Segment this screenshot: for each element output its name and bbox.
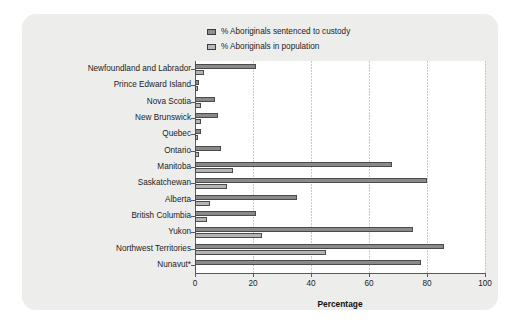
x-tick-mark: [369, 273, 370, 277]
y-tick-mark: [191, 232, 195, 233]
bar-custody: [195, 64, 256, 69]
chart-panel: % Aboriginals sentenced to custody % Abo…: [22, 14, 498, 310]
bar-group: [195, 63, 485, 75]
bar-custody: [195, 260, 421, 265]
bar-group: [195, 96, 485, 108]
x-axis-line: [195, 273, 485, 274]
y-axis-label: Nunavut*: [157, 260, 191, 269]
y-tick-mark: [191, 85, 195, 86]
y-axis-label: Yukon: [168, 227, 191, 236]
y-axis-category-labels: Newfoundland and LabradorPrince Edward I…: [52, 61, 191, 273]
x-tick-mark: [311, 273, 312, 277]
y-axis-label: New Brunswick: [135, 113, 191, 122]
y-tick-mark: [191, 216, 195, 217]
y-axis-label: Prince Edward Island: [114, 80, 191, 89]
bar-custody: [195, 178, 427, 183]
bar-population: [195, 168, 233, 173]
x-tick-label: 80: [412, 279, 442, 289]
y-axis-label: Alberta: [165, 195, 191, 204]
y-axis-label: Newfoundland and Labrador: [88, 64, 191, 73]
bar-population: [195, 103, 201, 108]
bar-population: [195, 201, 210, 206]
bar-group: [195, 79, 485, 91]
x-axis-title: Percentage: [195, 299, 485, 309]
x-tick-mark: [485, 273, 486, 277]
bar-population: [195, 250, 326, 255]
x-tick-label: 60: [354, 279, 384, 289]
y-axis-label: Manitoba: [157, 162, 191, 171]
y-axis-label: Ontario: [164, 146, 191, 155]
bar-group: [195, 112, 485, 124]
y-axis-label: Saskatchewan: [138, 178, 191, 187]
bar-group: [195, 226, 485, 238]
legend-swatch-custody: [207, 29, 216, 35]
bar-custody: [195, 227, 413, 232]
legend-label-population: % Aboriginals in population: [221, 42, 319, 52]
legend-label-custody: % Aboriginals sentenced to custody: [221, 27, 350, 37]
bar-group: [195, 210, 485, 222]
bar-custody: [195, 211, 256, 216]
y-tick-mark: [191, 102, 195, 103]
bar-group: [195, 128, 485, 140]
x-tick-label: 0: [180, 279, 210, 289]
y-tick-mark: [191, 183, 195, 184]
bar-group: [195, 177, 485, 189]
x-tick-label: 40: [296, 279, 326, 289]
bar-population: [195, 217, 207, 222]
y-tick-mark: [191, 151, 195, 152]
x-gridline: [485, 61, 486, 273]
legend-swatch-population: [207, 44, 216, 50]
bar-custody: [195, 113, 218, 118]
bar-group: [195, 243, 485, 255]
x-tick-label: 20: [238, 279, 268, 289]
y-axis-label: Nova Scotia: [147, 97, 191, 106]
bar-custody: [195, 129, 201, 134]
bar-population: [195, 70, 204, 75]
y-tick-mark: [191, 167, 195, 168]
y-tick-mark: [191, 200, 195, 201]
bar-custody: [195, 162, 392, 167]
bar-custody: [195, 97, 215, 102]
legend-item-custody: % Aboriginals sentenced to custody: [207, 26, 447, 38]
chart-legend: % Aboriginals sentenced to custody % Abo…: [207, 26, 447, 56]
bar-group: [195, 145, 485, 157]
bar-population: [195, 86, 198, 91]
y-tick-mark: [191, 249, 195, 250]
y-tick-mark: [191, 265, 195, 266]
y-tick-mark: [191, 134, 195, 135]
y-axis-label: British Columbia: [131, 211, 191, 220]
plot-area: 020406080100: [195, 61, 485, 273]
bar-population: [195, 184, 227, 189]
x-tick-mark: [427, 273, 428, 277]
bar-population: [195, 233, 262, 238]
y-tick-mark: [191, 69, 195, 70]
bar-population: [195, 135, 198, 140]
x-tick-mark: [195, 273, 196, 277]
bar-group: [195, 161, 485, 173]
y-tick-mark: [191, 118, 195, 119]
y-axis-label: Quebec: [162, 129, 191, 138]
bar-group: [195, 259, 485, 271]
bar-population: [195, 119, 201, 124]
bar-custody: [195, 195, 297, 200]
bar-group: [195, 194, 485, 206]
bar-custody: [195, 244, 444, 249]
legend-item-population: % Aboriginals in population: [207, 41, 447, 53]
x-tick-mark: [253, 273, 254, 277]
bar-custody: [195, 80, 199, 85]
bar-population: [195, 152, 199, 157]
y-axis-label: Northwest Territories: [116, 244, 191, 253]
bar-custody: [195, 146, 221, 151]
x-tick-label: 100: [470, 279, 500, 289]
